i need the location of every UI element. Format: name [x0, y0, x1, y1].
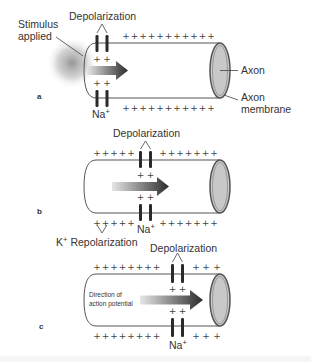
axon-membrane-label-line2: membrane: [241, 103, 291, 115]
positive-charge: +: [169, 284, 177, 294]
positive-charge: +: [192, 331, 200, 341]
positive-charge: +: [202, 218, 210, 228]
positive-charge: +: [93, 78, 101, 88]
outer-charges-bottom: +++++++++++: [93, 331, 221, 341]
positive-charge: +: [119, 262, 127, 272]
positive-charge: +: [144, 262, 152, 272]
positive-charge: +: [153, 331, 161, 341]
ion-channel: [106, 90, 109, 107]
positive-charge: +: [153, 262, 161, 272]
positive-charge: +: [137, 170, 145, 180]
positive-charge: +: [202, 331, 210, 341]
positive-charge: +: [173, 31, 181, 41]
depolarization-label: Depolarization: [69, 10, 136, 22]
outer-charges-bottom: ++++++++++++: [93, 218, 218, 228]
ion-channel: [106, 35, 109, 52]
positive-charge: +: [165, 31, 173, 41]
positive-charge: +: [213, 331, 221, 341]
axon-membrane-label: Axon: [241, 91, 265, 103]
ion-channel: [149, 204, 152, 221]
positive-charge: +: [119, 218, 127, 228]
positive-charge: +: [192, 262, 200, 272]
positive-charge: +: [93, 331, 101, 341]
positive-charge: +: [156, 103, 164, 113]
positive-charge: +: [156, 31, 164, 41]
sodium-ion-label: Na+: [169, 338, 187, 351]
positive-charge: +: [179, 284, 187, 294]
positive-charge: +: [110, 218, 118, 228]
positive-charge: +: [127, 218, 135, 228]
positive-charge: +: [176, 148, 184, 158]
inner-charges-top: ++: [137, 170, 155, 180]
positive-charge: +: [190, 31, 198, 41]
positive-charge: +: [210, 218, 218, 228]
inner-charges-top: ++: [93, 54, 111, 64]
positive-charge: +: [122, 103, 130, 113]
depolarization-label: Depolarization: [113, 127, 180, 139]
positive-charge: +: [179, 306, 187, 316]
positive-charge: +: [210, 148, 218, 158]
panel-label-b: b: [37, 207, 42, 216]
sodium-ion-label: Na+: [137, 222, 155, 235]
positive-charge: +: [102, 218, 110, 228]
panel-c: Depolarization ++ ++ +++++++++++ +++++++…: [39, 242, 230, 351]
positive-charge: +: [144, 331, 152, 341]
positive-charge: +: [168, 218, 176, 228]
positive-charge: +: [199, 31, 207, 41]
ion-channel: [139, 151, 142, 168]
outer-charges-bottom: +++++++++++: [122, 103, 215, 113]
action-potential-diagram: Depolarization Stimulus applied ++ ++ ++…: [0, 0, 311, 362]
repolarization-label: K+Repolarization: [56, 235, 138, 248]
positive-charge: +: [147, 192, 155, 202]
positive-charge: +: [159, 148, 167, 158]
direction-label: Direction of: [89, 291, 122, 298]
ion-channel: [139, 204, 142, 221]
positive-charge: +: [182, 103, 190, 113]
positive-charge: +: [131, 31, 139, 41]
positive-charge: +: [169, 306, 177, 316]
positive-charge: +: [148, 103, 156, 113]
ion-channel: [149, 151, 152, 168]
positive-charge: +: [136, 262, 144, 272]
ion-channel: [181, 318, 184, 337]
outer-charges-top: +++++++++++: [122, 31, 215, 41]
ion-channel: [181, 264, 184, 283]
positive-charge: +: [147, 170, 155, 180]
positive-charge: +: [190, 103, 198, 113]
positive-charge: +: [207, 31, 215, 41]
direction-label-line2: action potential: [89, 300, 133, 308]
positive-charge: +: [165, 103, 173, 113]
positive-charge: +: [93, 54, 101, 64]
positive-charge: +: [202, 148, 210, 158]
inner-charges-bottom: ++: [169, 306, 187, 316]
positive-charge: +: [93, 148, 101, 158]
panel-label-c: c: [39, 322, 44, 331]
positive-charge: +: [199, 103, 207, 113]
axon-label: Axon: [241, 64, 265, 76]
positive-charge: +: [185, 148, 193, 158]
positive-charge: +: [127, 262, 135, 272]
positive-charge: +: [139, 31, 147, 41]
positive-charge: +: [193, 148, 201, 158]
positive-charge: +: [127, 331, 135, 341]
positive-charge: +: [102, 331, 110, 341]
positive-charge: +: [102, 148, 110, 158]
cropped-caption-strip: [0, 356, 311, 362]
positive-charge: +: [110, 262, 118, 272]
positive-charge: +: [93, 262, 101, 272]
positive-charge: +: [127, 148, 135, 158]
positive-charge: +: [122, 31, 130, 41]
outer-charges-top: +++++++++++: [93, 262, 221, 272]
depolarization-pointer: [141, 141, 151, 149]
positive-charge: +: [185, 218, 193, 228]
panel-a: Depolarization Stimulus applied ++ ++ ++…: [18, 10, 291, 120]
ion-channel: [96, 35, 99, 52]
depolarization-pointer: [97, 24, 107, 33]
positive-charge: +: [110, 331, 118, 341]
panel-b: Depolarization ++ ++ ++++++++++++ ++++++…: [37, 127, 230, 248]
inner-charges-bottom: ++: [93, 78, 111, 88]
positive-charge: +: [93, 218, 101, 228]
positive-charge: +: [103, 54, 111, 64]
stimulus-label: Stimulus: [18, 18, 58, 30]
positive-charge: +: [103, 78, 111, 88]
